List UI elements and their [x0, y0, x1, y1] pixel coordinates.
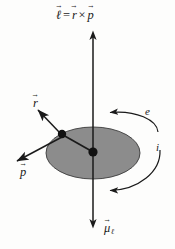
angular-momentum-equation: ℓ=r×p: [56, 9, 94, 22]
momentum-vector-label: p: [20, 166, 26, 179]
vector-l-symbol: ℓ: [56, 9, 62, 22]
radius-vector-symbol: r: [33, 97, 38, 110]
equals-sign: =: [62, 8, 72, 22]
center-dot: [88, 147, 97, 156]
momentum-vector-symbol: p: [20, 166, 26, 179]
radius-vector-arrow: [38, 110, 60, 133]
magnetic-moment-label: μℓ: [104, 222, 114, 236]
magnetic-moment-subscript: ℓ: [110, 227, 114, 236]
electron-direction-arc: [110, 112, 158, 132]
current-label: i: [156, 142, 159, 153]
cross-product-sign: ×: [77, 8, 87, 22]
magnetic-moment-symbol: μ: [104, 222, 110, 235]
vector-r-symbol: r: [72, 9, 77, 22]
electron-dot: [58, 130, 66, 138]
radius-vector-label: r: [33, 97, 38, 110]
diagram-canvas: [0, 0, 175, 249]
physics-diagram-angular-momentum: ℓ=r×p r p μℓ e i: [0, 0, 175, 249]
electron-label: e: [145, 106, 150, 117]
vector-p-symbol: p: [87, 9, 94, 22]
